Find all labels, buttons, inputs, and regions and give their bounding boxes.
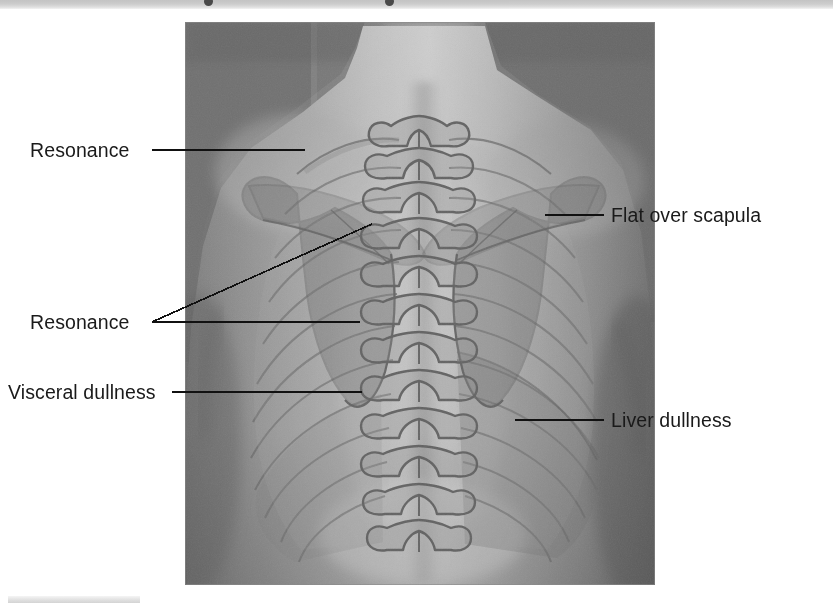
label-liver-dullness: Liver dullness [611,411,732,431]
label-visceral-dullness: Visceral dullness [8,383,156,403]
bottom-cutoff-bar [8,596,140,603]
film-grain [185,22,655,585]
cutoff-glyph-2 [385,0,394,6]
figure-root: Resonance Resonance Visceral dullness Fl… [0,0,833,603]
label-flat-over-scapula: Flat over scapula [611,206,761,226]
label-resonance-lower: Resonance [30,313,130,333]
label-resonance-upper: Resonance [30,141,130,161]
top-cutoff-strip [0,0,833,9]
photograph-canvas [185,22,655,585]
anatomy-photograph [185,22,655,585]
cutoff-glyph-1 [204,0,213,6]
